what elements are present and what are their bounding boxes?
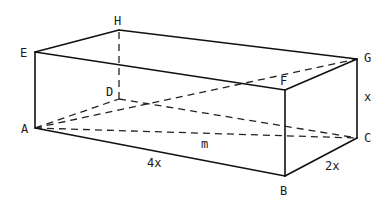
edge-eh xyxy=(35,30,119,52)
space-diagonal-ag xyxy=(35,59,357,128)
prism-diagram: H E D F G A C B 4x 2x x m xyxy=(0,0,390,206)
vertex-label-b: B xyxy=(280,184,287,198)
dimension-label-width: 2x xyxy=(325,159,339,173)
vertex-label-g: G xyxy=(364,51,371,65)
edge-gf xyxy=(285,59,357,90)
dimension-label-height: x xyxy=(364,90,371,104)
edge-bc xyxy=(285,138,357,176)
edge-ef xyxy=(35,52,285,90)
vertex-label-h: H xyxy=(114,14,121,28)
vertex-label-f: F xyxy=(280,74,287,88)
vertex-label-e: E xyxy=(20,46,27,60)
diagonal-label-m: m xyxy=(201,137,208,151)
vertex-label-a: A xyxy=(21,122,29,136)
vertex-label-c: C xyxy=(364,131,371,145)
edge-ad-hidden xyxy=(35,99,119,128)
edge-dc-hidden xyxy=(119,99,357,138)
dimension-label-length: 4x xyxy=(147,156,161,170)
vertex-label-d: D xyxy=(106,85,113,99)
edge-hg xyxy=(119,30,357,59)
